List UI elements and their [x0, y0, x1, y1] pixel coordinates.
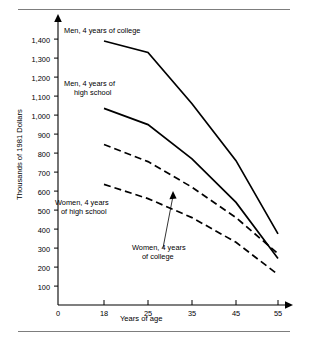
x-tick-marks: [104, 300, 278, 305]
annotation-women-high-school-line2: of high school: [61, 207, 107, 216]
figure: 1,400 1,300 1,200 1,100 1,000 900 800 70…: [0, 0, 309, 344]
series-line-men-high-school: [104, 108, 278, 258]
y-tick-label: 700: [20, 169, 50, 178]
series-line-women-college: [104, 145, 278, 254]
x-tick-label: 55: [266, 309, 290, 318]
annotation-men-high-school-line2: high school: [74, 88, 111, 97]
annotation-women-college-line2: of college: [142, 252, 174, 261]
y-tick-label: 1,200: [20, 74, 50, 83]
y-axis-arrowhead: [54, 14, 62, 22]
annotation-leader-line: [163, 196, 173, 248]
y-tick-label: 500: [20, 207, 50, 216]
y-tick-label: 300: [20, 245, 50, 254]
y-tick-label: 900: [20, 131, 50, 140]
y-tick-label: 1,100: [20, 93, 50, 102]
x-axis-arrowhead: [285, 301, 293, 309]
annotation-women-high-school-line1: Women, 4 years: [55, 198, 109, 207]
y-tick-label: 1,000: [20, 112, 50, 121]
x-tick-label: 0: [46, 309, 70, 318]
annotation-men-high-school-line1: Men, 4 years of: [64, 79, 115, 88]
y-tick-label: 600: [20, 188, 50, 197]
series-line-men-college: [104, 41, 278, 234]
y-tick-label: 100: [20, 283, 50, 292]
annotation-arrowhead: [169, 191, 176, 199]
x-axis-label: Years of age: [120, 314, 162, 323]
y-tick-label: 1,300: [20, 55, 50, 64]
y-tick-label: 1,400: [20, 36, 50, 45]
y-tick-label: 800: [20, 150, 50, 159]
y-axis-label: Thousands of 1981 Dollars: [15, 85, 24, 225]
x-tick-label: 18: [92, 309, 116, 318]
y-tick-label: 200: [20, 264, 50, 273]
y-tick-label: 400: [20, 226, 50, 235]
y-tick-marks: [54, 39, 58, 286]
x-tick-label: 45: [224, 309, 248, 318]
annotation-men-college: Men, 4 years of college: [64, 26, 140, 35]
series-line-women-high-school: [104, 184, 278, 274]
x-tick-label: 35: [180, 309, 204, 318]
annotation-women-college-line1: Women, 4 years: [132, 243, 186, 252]
